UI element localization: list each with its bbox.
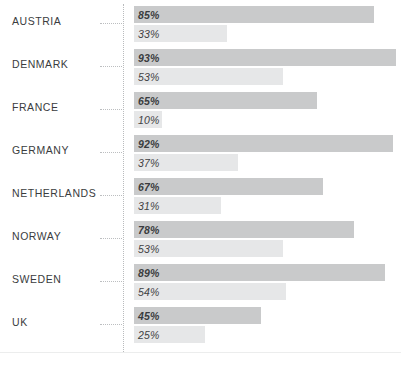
- leader-dots: [100, 281, 122, 282]
- bars-area: 92%37%: [134, 135, 401, 171]
- bar-top: 93%: [134, 49, 396, 66]
- leader-dots: [100, 324, 122, 325]
- bar-bottom: 31%: [134, 197, 221, 214]
- chart-group-row: FRANCE65%10%: [0, 92, 401, 128]
- leader-dots: [100, 66, 122, 67]
- bar-value-label: 78%: [138, 224, 160, 236]
- leader-dots: [100, 195, 122, 196]
- bar-value-label: 45%: [138, 310, 160, 322]
- bar-top: 92%: [134, 135, 393, 152]
- bar-value-label: 85%: [138, 9, 160, 21]
- chart-group-row: SWEDEN89%54%: [0, 264, 401, 300]
- bar-bottom: 53%: [134, 68, 283, 85]
- chart-group-row: UK45%25%: [0, 307, 401, 343]
- bar-value-label: 31%: [138, 200, 160, 212]
- bar-bottom: 33%: [134, 25, 227, 42]
- bar-top: 45%: [134, 307, 261, 324]
- bar-top: 78%: [134, 221, 354, 238]
- bar-bottom: 25%: [134, 326, 205, 343]
- chart-group-row: AUSTRIA85%33%: [0, 6, 401, 42]
- bar-value-label: 65%: [138, 95, 160, 107]
- leader-dots: [100, 152, 122, 153]
- leader-dots: [100, 238, 122, 239]
- horizontal-baseline: [0, 352, 401, 353]
- bar-value-label: 67%: [138, 181, 160, 193]
- bar-value-label: 92%: [138, 138, 160, 150]
- bars-area: 78%53%: [134, 221, 401, 257]
- category-label: DENMARK: [12, 58, 68, 70]
- category-label: GERMANY: [12, 144, 69, 156]
- bar-value-label: 33%: [138, 28, 160, 40]
- chart-group-row: NETHERLANDS67%31%: [0, 178, 401, 214]
- bar-value-label: 37%: [138, 157, 160, 169]
- bar-top: 65%: [134, 92, 317, 109]
- chart-group-row: GERMANY92%37%: [0, 135, 401, 171]
- bars-area: 89%54%: [134, 264, 401, 300]
- bar-value-label: 54%: [138, 286, 160, 298]
- leader-dots: [100, 109, 122, 110]
- bars-area: 65%10%: [134, 92, 401, 128]
- bar-top: 85%: [134, 6, 374, 23]
- bar-value-label: 53%: [138, 243, 160, 255]
- bar-chart: AUSTRIA85%33%DENMARK93%53%FRANCE65%10%GE…: [0, 0, 401, 368]
- bars-area: 85%33%: [134, 6, 401, 42]
- bar-value-label: 89%: [138, 267, 160, 279]
- category-label: NORWAY: [12, 230, 61, 242]
- bar-top: 89%: [134, 264, 385, 281]
- category-label: AUSTRIA: [12, 15, 61, 27]
- bar-bottom: 37%: [134, 154, 238, 171]
- bars-area: 93%53%: [134, 49, 401, 85]
- bar-value-label: 10%: [138, 114, 160, 126]
- bar-bottom: 54%: [134, 283, 286, 300]
- bar-value-label: 25%: [138, 329, 160, 341]
- leader-dots: [100, 23, 122, 24]
- bars-area: 45%25%: [134, 307, 401, 343]
- bar-value-label: 53%: [138, 71, 160, 83]
- category-label: SWEDEN: [12, 273, 61, 285]
- category-label: NETHERLANDS: [12, 187, 96, 199]
- category-label: UK: [12, 316, 28, 328]
- bar-top: 67%: [134, 178, 323, 195]
- category-label: FRANCE: [12, 101, 58, 113]
- bar-bottom: 10%: [134, 111, 162, 128]
- chart-group-row: NORWAY78%53%: [0, 221, 401, 257]
- bar-value-label: 93%: [138, 52, 160, 64]
- chart-group-row: DENMARK93%53%: [0, 49, 401, 85]
- bars-area: 67%31%: [134, 178, 401, 214]
- bar-bottom: 53%: [134, 240, 283, 257]
